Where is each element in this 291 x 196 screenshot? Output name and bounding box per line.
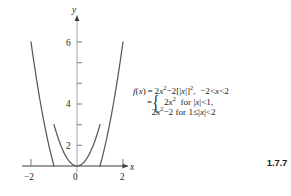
- formula-line-2: ={ 2x2 for |x|<1,: [133, 97, 285, 108]
- function-definition: f(x) = 2x2−2[|x|]2, −2<x<2 ={ 2x2 for |x…: [133, 86, 285, 118]
- y-tick-label-6: 6: [66, 38, 71, 48]
- origin-label: 0: [73, 172, 78, 182]
- figure-number: 1.7.7: [267, 157, 287, 168]
- x-tick-label-neg2: −2: [24, 172, 34, 182]
- y-axis: [75, 15, 80, 172]
- figure-page: y x 6 4 2 −2 2 0 f(x) = 2x2−2[|x|]2, −2<…: [0, 0, 291, 196]
- y-axis-label: y: [71, 5, 77, 15]
- y-tick-label-2: 2: [66, 141, 71, 151]
- x-axis-label: x: [129, 162, 135, 172]
- x-tick-label-2: 2: [120, 172, 125, 182]
- curve-left-branch: [31, 42, 54, 166]
- y-tick-label-4: 4: [66, 99, 71, 109]
- curve-right-branch: [100, 42, 123, 166]
- y-axis-ticks: [77, 42, 82, 145]
